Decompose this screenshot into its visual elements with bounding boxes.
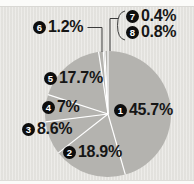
slice-percentage-3: 8.6% — [37, 122, 72, 136]
slice-number-badge-4: 4 — [42, 101, 55, 114]
leader-line-slices-7-8 — [110, 19, 118, 52]
slice-percentage-6: 1.2% — [48, 20, 83, 34]
slice-number-badge-8: 8 — [126, 26, 139, 39]
slice-percentage-2: 18.9% — [78, 145, 122, 159]
leader-bracket-icon — [118, 11, 126, 40]
slice-number-badge-7: 7 — [126, 10, 139, 23]
slice-label-5: 5 17.7% — [44, 71, 103, 85]
slice-label-8: 8 0.8% — [126, 25, 176, 39]
slice-label-3: 3 8.6% — [22, 122, 72, 136]
slice-percentage-4: 7% — [57, 100, 80, 114]
slice-number-badge-3: 3 — [22, 123, 35, 136]
slice-number-badge-2: 2 — [63, 146, 76, 159]
slice-percentage-8: 0.8% — [141, 25, 176, 39]
slice-number-badge-6: 6 — [33, 21, 46, 34]
slice-percentage-5: 17.7% — [59, 71, 103, 85]
slice-number-badge-1: 1 — [114, 104, 127, 117]
slice-label-4: 4 7% — [42, 100, 80, 114]
slice-percentage-1: 45.7% — [129, 103, 173, 117]
slice-label-1: 1 45.7% — [114, 103, 173, 117]
slice-label-2: 2 18.9% — [63, 145, 122, 159]
slice-percentage-7: 0.4% — [141, 9, 176, 23]
slice-label-7: 7 0.4% — [126, 9, 176, 23]
slice-label-6: 6 1.2% — [33, 20, 83, 34]
slice-number-badge-5: 5 — [44, 72, 57, 85]
leader-line-slice6 — [88, 28, 103, 53]
